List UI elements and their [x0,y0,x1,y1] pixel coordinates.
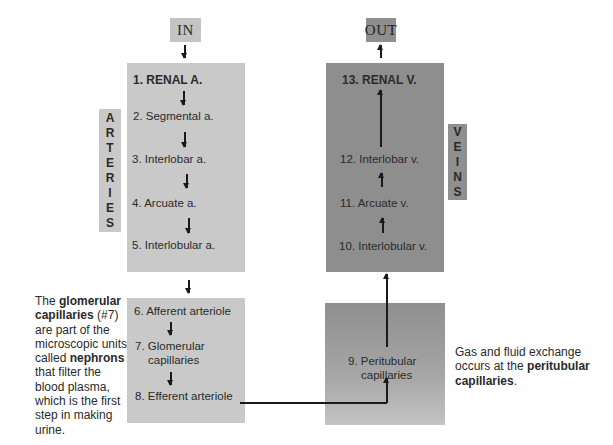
note-line: The glomerular [35,294,130,308]
arrow-up-icon [386,274,388,347]
note-text: (#7) [94,308,119,322]
note-text: blood plasma, [35,380,110,394]
interlobular-artery: 5. Interlobular a. [132,239,215,251]
arcuate-artery: 4. Arcuate a. [132,197,197,209]
note-text: step in making [35,408,112,422]
arrow-down-icon [188,218,190,233]
in-label-text: IN [177,22,194,39]
note-text: that filter the [35,365,101,379]
arteries-letter: T [106,141,113,156]
arrow-down-icon [186,174,188,188]
veins-box: 13. RENAL V. 12. Interlobar v. 11. Arcua… [326,63,444,272]
arteries-letter: I [108,186,111,201]
arrow-up-icon [380,90,382,147]
arteries-letter: A [106,111,115,126]
note-emphasis: peritubular [527,359,590,373]
segmental-artery: 2. Segmental a. [133,110,214,122]
veins-letter: S [453,185,461,200]
note-line: are part of the [35,323,130,337]
arrow-up-icon [382,218,384,233]
connector-line [240,402,387,404]
arteries-box: 1. RENAL A. 2. Segmental a. 3. Interloba… [127,63,245,272]
note-emphasis: capillaries [455,374,514,388]
renal-vein: 13. RENAL V. [342,73,417,87]
note-line: which is the first [35,394,130,408]
arteries-side-label: ARTERIES [99,109,121,232]
note-line: capillaries (#7) [35,308,130,322]
veins-side-label: VEINS [448,124,467,200]
arteries-letter: R [106,126,115,141]
out-label: OUT [366,18,396,42]
note-line: called nephrons [35,351,130,365]
arrow-down-icon [170,322,172,335]
veins-letter: I [456,155,459,170]
note-text: microscopic units [35,337,127,351]
interlobular-vein: 10. Interlobular v. [339,240,427,252]
note-text: occurs at the [455,359,527,373]
arrow-down-icon [183,91,185,105]
glomerular-capillaries-line2: capillaries [148,354,199,366]
note-line: occurs at the peritubular [455,359,605,373]
arteries-letter: E [106,201,114,216]
arrow-up-icon [386,378,388,403]
note-emphasis: glomerular [59,294,121,308]
note-text: The [35,294,59,308]
note-line: blood plasma, [35,380,130,394]
arrow-down-icon [188,280,190,293]
afferent-arteriole: 6. Afferent arteriole [134,305,231,317]
glomerular-capillaries: 7. Glomerular [135,340,205,352]
arrow-down-icon [170,372,172,385]
arterioles-box: 6. Afferent arteriole 7. Glomerular capi… [127,298,245,423]
peritubular-capillaries: 9. Peritubular [348,355,416,367]
in-label: IN [170,18,201,42]
arrow-up-icon [381,173,383,187]
note-line: urine. [35,423,130,437]
arteries-letter: S [106,216,114,231]
note-text: which is the first [35,394,120,408]
arrow-up-icon [380,45,382,58]
note-text: . [514,374,517,388]
renal-artery: 1. RENAL A. [133,73,202,87]
note-text: are part of the [35,323,110,337]
note-line: that filter the [35,365,130,379]
arteries-letter: E [106,156,114,171]
note-emphasis: nephrons [70,351,125,365]
interlobar-vein: 12. Interlobar v. [340,153,419,165]
note-text: called [35,351,70,365]
out-label-text: OUT [365,22,397,39]
interlobar-artery: 3. Interlobar a. [132,153,206,165]
note-line: Gas and fluid exchange [455,345,605,359]
veins-letter: E [453,140,461,155]
note-line: step in making [35,408,130,422]
note-line: capillaries. [455,374,605,388]
glomerular-note: The glomerularcapillaries (#7)are part o… [35,294,130,437]
note-text: urine. [35,423,65,437]
efferent-arteriole: 8. Efferent arteriole [135,390,233,402]
veins-letter: N [453,170,462,185]
arrow-down-icon [184,45,186,58]
arteries-letter: R [106,171,115,186]
arrow-down-icon [184,132,186,147]
note-text: Gas and fluid exchange [455,345,581,359]
note-emphasis: capillaries [35,308,94,322]
veins-letter: V [453,125,461,140]
arcuate-vein: 11. Arcuate v. [340,197,409,209]
peritubular-box: 9. Peritubular capillaries [325,303,445,425]
note-line: microscopic units [35,337,130,351]
peritubular-note: Gas and fluid exchangeoccurs at the peri… [455,345,605,388]
